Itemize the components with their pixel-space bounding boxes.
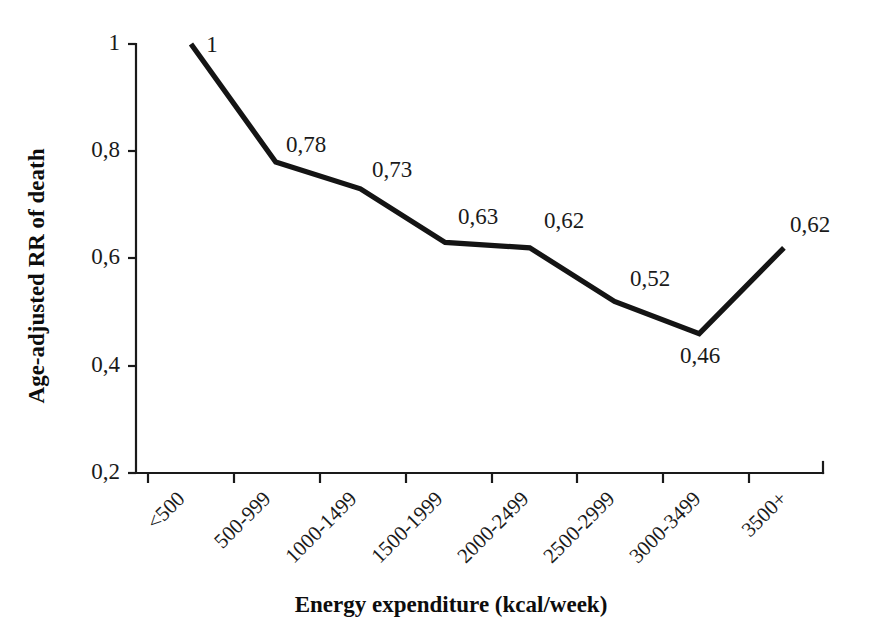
data-point-label: 0,62	[790, 212, 830, 237]
y-axis-title: Age-adjusted RR of death	[24, 148, 49, 403]
x-axis-title: Energy expenditure (kcal/week)	[295, 592, 608, 617]
y-tick-label: 1	[109, 30, 121, 55]
y-tick-label: 0,8	[91, 137, 120, 162]
y-tick-label: 0,2	[91, 459, 120, 484]
line-chart: 1 0,8 0,6 0,4 0,2 <500 500-999 1000-1499…	[0, 0, 871, 634]
data-point-label: 0,73	[372, 157, 412, 182]
data-point-label: 0,46	[680, 343, 720, 368]
data-point-label: 1	[206, 32, 218, 57]
y-tick-label: 0,6	[91, 244, 120, 269]
data-point-label: 0,63	[458, 204, 498, 229]
data-point-label: 0,78	[286, 132, 326, 157]
data-point-label: 0,62	[544, 208, 584, 233]
chart-background	[0, 0, 871, 634]
data-point-label: 0,52	[630, 266, 670, 291]
y-tick-label: 0,4	[91, 352, 120, 377]
chart-figure: 1 0,8 0,6 0,4 0,2 <500 500-999 1000-1499…	[0, 0, 871, 634]
